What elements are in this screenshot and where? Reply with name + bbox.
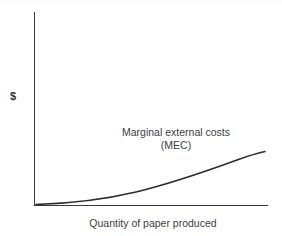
x-axis-label: Quantity of paper produced (0, 217, 282, 230)
mec-curve-label-line2: (MEC) (96, 139, 256, 152)
chart-figure: $ Marginal external costs (MEC) Quantity… (0, 0, 282, 236)
mec-curve-label-line1: Marginal external costs (122, 126, 230, 138)
mec-curve (36, 152, 265, 205)
plot-area (0, 0, 282, 236)
y-axis-label: $ (10, 90, 16, 103)
mec-curve-label: Marginal external costs (MEC) (96, 126, 256, 152)
